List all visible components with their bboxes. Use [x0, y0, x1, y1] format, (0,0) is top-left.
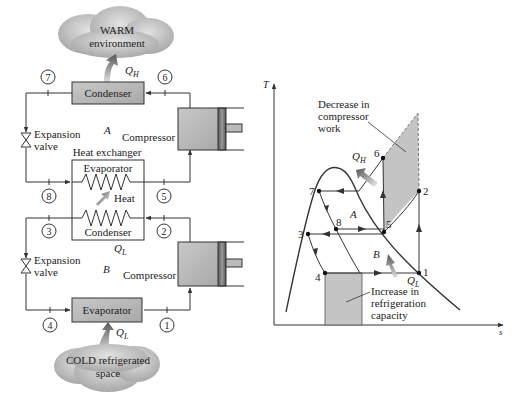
- ql-bottom-label: QL: [116, 326, 129, 341]
- hx-evaporator-label: Evaporator: [84, 162, 133, 174]
- state-4-marker: 4: [43, 318, 57, 332]
- expansion-valve-top-line2: valve: [34, 140, 58, 152]
- svg-text:3: 3: [47, 226, 52, 237]
- state-6-marker: 6: [158, 70, 172, 84]
- cold-space-cloud: COLD refrigerated space: [54, 344, 160, 392]
- cascade-refrigeration-figure: WARM environment QH Condenser 7 6 8 5: [0, 0, 529, 401]
- ts-ql-arrow: [386, 254, 398, 278]
- svg-text:7: 7: [46, 72, 51, 83]
- state-5-marker: 5: [157, 189, 171, 203]
- heat-exchanger-title: Heat exchanger: [73, 146, 142, 158]
- compressor-bottom-label: Compressor: [123, 269, 177, 281]
- refrigeration-capacity-shade: [325, 273, 362, 325]
- expansion-valve-top-line1: Expansion: [34, 128, 81, 140]
- state-2-marker: 2: [157, 224, 171, 238]
- annotation-compressor-work-line1: Decrease in: [318, 98, 370, 110]
- ts-cycle-a-label: A: [349, 208, 357, 220]
- expansion-valve-top-icon: [21, 133, 31, 147]
- state-8-marker: 8: [42, 189, 56, 203]
- warm-cloud-line2: environment: [89, 37, 145, 49]
- expansion-valve-bottom-icon: [21, 259, 31, 273]
- svg-text:1: 1: [165, 320, 170, 331]
- ts-qh-label: QH: [352, 150, 367, 165]
- expansion-valve-bottom-line1: Expansion: [34, 254, 81, 266]
- ts-cycle-b-label: B: [373, 248, 380, 260]
- ts-point-1: 1: [423, 266, 429, 278]
- annotation-capacity-line3: capacity: [371, 309, 408, 321]
- compressor-top-label: Compressor: [122, 131, 176, 143]
- cycle-b-label: B: [103, 263, 110, 275]
- state-7-marker: 7: [41, 70, 55, 84]
- heat-rejection-arrow: [104, 54, 118, 82]
- svg-text:8: 8: [47, 191, 52, 202]
- hx-heat-label: Heat: [114, 192, 135, 204]
- ts-point-5: 5: [386, 218, 392, 230]
- ts-point-4: 4: [315, 271, 321, 283]
- state-1-marker: 1: [160, 318, 174, 332]
- svg-text:2: 2: [162, 226, 167, 237]
- ts-diagram: T s: [263, 79, 503, 337]
- expansion-valve-bottom-line2: valve: [34, 266, 58, 278]
- condenser-top-label: Condenser: [84, 87, 131, 99]
- state-3-marker: 3: [42, 224, 56, 238]
- ql-mid-label: QL: [114, 242, 127, 257]
- evaporator-bottom-label: Evaporator: [83, 304, 132, 316]
- svg-text:4: 4: [48, 320, 53, 331]
- annotation-capacity-line1: Increase in: [371, 285, 419, 297]
- svg-text:5: 5: [162, 191, 167, 202]
- svg-text:6: 6: [163, 72, 168, 83]
- ts-qh-arrow: [356, 168, 378, 187]
- cycle-a-label: A: [103, 124, 111, 136]
- annotation-compressor-work-line3: work: [318, 122, 341, 134]
- warm-cloud-line1: WARM: [100, 24, 134, 36]
- t-axis-label: T: [263, 79, 270, 90]
- ts-point-7: 7: [309, 185, 315, 197]
- cold-cloud-line2: space: [96, 367, 121, 379]
- ts-point-2: 2: [423, 185, 429, 197]
- ts-point-6: 6: [374, 147, 380, 159]
- compressor-bottom: [178, 242, 244, 286]
- hx-condenser-label: Condenser: [84, 226, 131, 238]
- annotation-capacity-line2: refrigeration: [371, 297, 426, 309]
- compressor-top: [178, 108, 244, 150]
- s-axis-label: s: [499, 327, 503, 337]
- cold-cloud-line1: COLD refrigerated: [66, 354, 150, 366]
- annotation-compressor-work-line2: compressor: [318, 110, 369, 122]
- ts-point-8: 8: [336, 216, 342, 228]
- ts-point-3: 3: [298, 228, 304, 240]
- qh-label: QH: [125, 64, 140, 79]
- warm-environment-cloud: WARM environment: [58, 6, 174, 58]
